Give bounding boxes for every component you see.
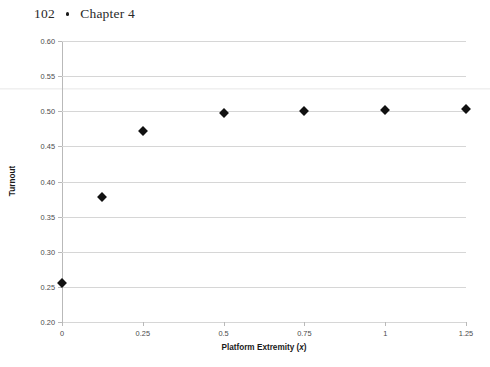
y-axis-tick-label: 0.40 [41,177,55,186]
y-axis-tick [58,76,62,77]
y-axis-tick [58,111,62,112]
data-point-marker [461,104,471,114]
y-axis-tick-label: 0.25 [41,282,55,291]
x-axis-tick-label: 0.5 [218,329,228,338]
x-axis-tick-label: 1 [383,329,387,338]
x-axis-tick [143,322,144,326]
y-axis-tick [58,41,62,42]
plot-area: 0.200.250.300.350.400.450.500.550.6000.2… [62,41,466,322]
x-axis-tick [304,322,305,326]
gridline-horizontal [62,41,466,42]
gridline-horizontal [62,322,466,323]
y-axis-tick [58,182,62,183]
x-axis-tick-label: 0.75 [297,329,311,338]
x-axis-title: Platform Extremity (x) [62,343,466,352]
gridline-horizontal [62,146,466,147]
gridline-horizontal [62,252,466,253]
y-axis-tick [58,252,62,253]
scatter-chart: 0.200.250.300.350.400.450.500.550.6000.2… [0,0,490,367]
x-axis-tick [62,322,63,326]
x-axis-tick [224,322,225,326]
y-axis-tick-label: 0.50 [41,107,55,116]
data-point-marker [97,192,107,202]
x-axis-tick [385,322,386,326]
x-axis-title-prefix: Platform Extremity ( [221,343,299,352]
y-axis-tick-label: 0.45 [41,142,55,151]
gridline-horizontal [62,111,466,112]
data-point-marker [219,108,229,118]
x-axis-tick-label: 0 [60,329,64,338]
y-axis-tick-label: 0.20 [41,318,55,327]
x-axis-tick [466,322,467,326]
gridline-horizontal [62,76,466,77]
data-point-marker [380,105,390,115]
x-axis-tick-label: 1.25 [459,329,473,338]
data-point-marker [138,126,148,136]
x-axis-tick-label: 0.25 [136,329,150,338]
x-axis-title-suffix: ) [304,343,307,352]
y-axis-tick-label: 0.30 [41,247,55,256]
y-axis-tick-label: 0.55 [41,72,55,81]
gridline-horizontal [62,182,466,183]
y-axis-tick [58,146,62,147]
gridline-horizontal [62,287,466,288]
y-axis-tick-label: 0.60 [41,37,55,46]
y-axis-tick [58,217,62,218]
y-axis-tick-label: 0.35 [41,212,55,221]
y-axis-title: Turnout [8,166,17,196]
gridline-horizontal [62,217,466,218]
data-point-marker [299,106,309,116]
